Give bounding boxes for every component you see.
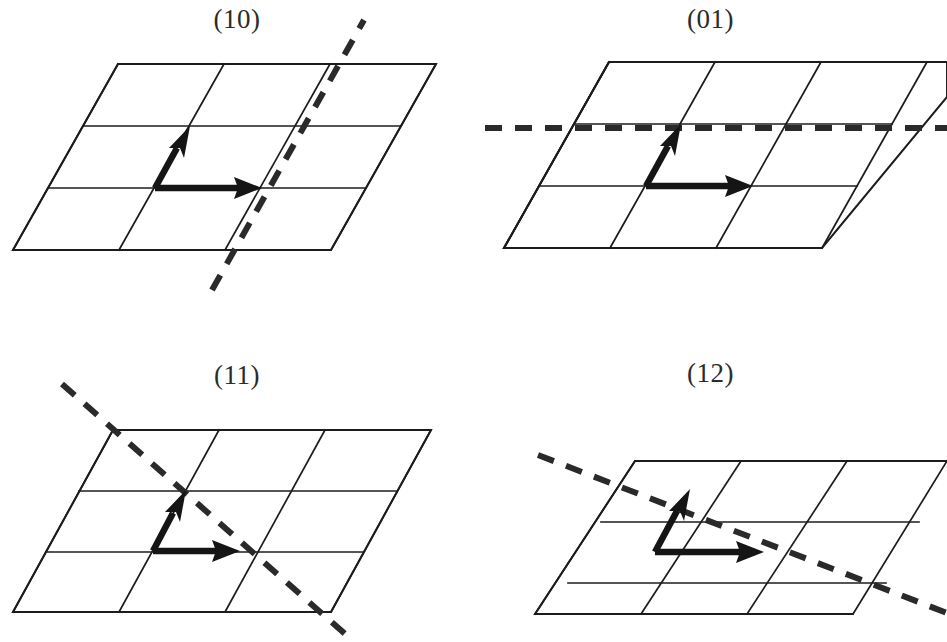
lattice-column-lines	[13, 430, 431, 612]
basis-vector-a	[155, 177, 262, 199]
lattice-column-lines	[13, 64, 436, 250]
panel-11: (11)	[0, 321, 474, 642]
lattice-diagram-12	[474, 321, 947, 642]
basis-vector-a	[646, 175, 753, 197]
basis-vector-b	[655, 489, 690, 552]
trace-line-11	[62, 384, 352, 640]
basis-vector-b	[646, 124, 681, 186]
lattice-border	[13, 64, 436, 250]
panel-10: (10)	[0, 0, 474, 321]
basis-vector-b	[155, 126, 190, 188]
lattice-border-left-bottom	[535, 461, 853, 614]
lattice-row-lines	[504, 62, 947, 248]
basis-vector-a	[153, 540, 240, 562]
lattice-diagram-01	[474, 0, 947, 321]
panel-01: (01)	[474, 0, 947, 321]
lattice-row-lines	[13, 430, 431, 612]
basis-vector-b	[153, 490, 186, 551]
lattice-row-lines	[13, 64, 436, 250]
panel-12: (12)	[474, 321, 947, 642]
lattice-diagram-11	[0, 321, 474, 642]
lattice-border	[13, 430, 431, 612]
miller-index-figure: (10)	[0, 0, 947, 642]
lattice-border-helper	[504, 62, 947, 248]
lattice-diagram-10	[0, 0, 474, 321]
trace-line-12	[538, 455, 947, 613]
lattice-column-lines	[504, 62, 927, 248]
basis-vector-a	[655, 541, 764, 563]
